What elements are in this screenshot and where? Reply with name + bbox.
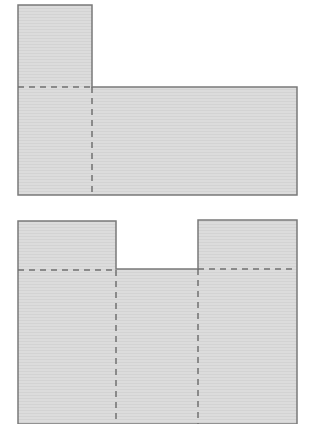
notched-net-outline xyxy=(18,220,297,424)
notched-net xyxy=(18,220,297,424)
l-shaped-net xyxy=(18,5,297,195)
l-shaped-net-outline xyxy=(18,5,297,195)
diagram-canvas xyxy=(0,0,315,424)
